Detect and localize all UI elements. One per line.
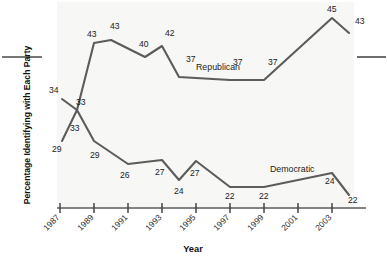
data-label-rep-1990: 43 xyxy=(87,29,97,39)
x-tick-label-1993: 1993 xyxy=(143,212,163,232)
data-label-dem-1999: 22 xyxy=(259,191,269,201)
data-label-dem-2004: 22 xyxy=(348,195,358,205)
data-label-dem-1997: 22 xyxy=(225,191,235,201)
data-label-rep-2004: 43 xyxy=(355,16,365,26)
x-axis-title: Year xyxy=(183,244,203,254)
x-tick-label-1999: 1999 xyxy=(245,212,265,232)
data-label-rep-1993: 40 xyxy=(139,39,149,49)
data-label-dem-1994: 24 xyxy=(174,186,184,196)
data-label-dem-2003: 24 xyxy=(325,176,335,186)
x-tick-label-1989: 1989 xyxy=(75,212,95,232)
x-tick-label-1997: 1997 xyxy=(211,212,231,232)
x-tick-label-2001: 2001 xyxy=(279,212,299,232)
y-axis-title: Percentage Identifying with Each Party xyxy=(22,46,32,205)
x-tick-label-1995: 1995 xyxy=(177,212,197,232)
data-label-rep-1988: 33 xyxy=(76,97,86,107)
data-label-rep-1987: 29 xyxy=(52,144,62,154)
data-label-dem-1993: 27 xyxy=(155,167,165,177)
data-label-dem-1987: 34 xyxy=(49,85,59,95)
x-tick-label-2003: 2003 xyxy=(313,212,333,232)
plot-area-background xyxy=(57,2,354,207)
x-tick-label-1987: 1987 xyxy=(41,212,61,232)
series-annotation-democratic: Democratic xyxy=(270,164,315,174)
data-label-rep-1995: 37 xyxy=(186,54,196,64)
data-label-dem-1988: 33 xyxy=(70,123,80,133)
chart-figure: 29 33 43 43 40 42 37 37 37 45 43 34 33 2… xyxy=(0,0,387,260)
data-label-rep-1991: 43 xyxy=(110,21,120,31)
data-label-rep-2003: 45 xyxy=(327,4,337,14)
data-label-rep-1999: 37 xyxy=(268,57,278,67)
data-label-dem-1990: 29 xyxy=(90,150,100,160)
series-annotation-republican: Republican xyxy=(196,62,240,72)
data-label-dem-1991: 26 xyxy=(120,170,130,180)
data-label-dem-1995: 27 xyxy=(190,168,200,178)
x-tick-label-1991: 1991 xyxy=(109,212,129,232)
data-label-rep-1994: 42 xyxy=(165,28,175,38)
